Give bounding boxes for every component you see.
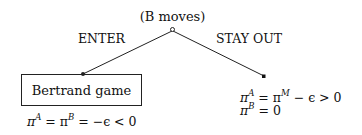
payoff-line-b: πB = 0	[240, 104, 342, 117]
equation-part: − ϵ > 0	[290, 90, 342, 105]
stay-out-payoffs: πA = πM − ϵ > 0 πB = 0	[240, 91, 342, 117]
root-node-icon	[171, 28, 175, 32]
stay-out-branch-label: STAY OUT	[216, 31, 282, 46]
enter-payoffs: πA = πB = −ϵ < 0	[27, 115, 137, 128]
equation-part: = 0	[254, 103, 280, 118]
pi-symbol: π	[240, 103, 248, 118]
superscript: M	[281, 88, 290, 98]
equation-part: = π	[41, 114, 68, 129]
bertrand-game-label: Bertrand game	[32, 83, 132, 98]
equation-part: = −ϵ < 0	[74, 114, 136, 129]
pi-symbol: π	[27, 114, 35, 129]
enter-branch-label: ENTER	[78, 31, 125, 46]
stay-out-terminal-node-icon	[262, 75, 266, 79]
bertrand-game-box: Bertrand game	[21, 74, 142, 106]
